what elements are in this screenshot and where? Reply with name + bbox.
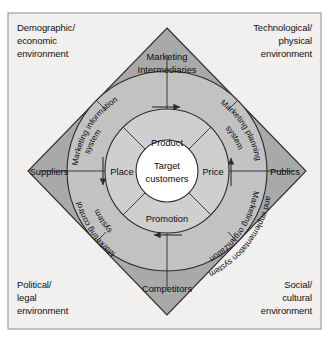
env-bl-line2: legal	[17, 292, 37, 303]
actor-top-line1: Marketing	[147, 52, 188, 62]
mix-label-promotion: Promotion	[146, 214, 188, 224]
actor-label-publics: Publics	[270, 167, 300, 177]
env-tr-line2: physical	[278, 35, 312, 46]
env-bl-line3: environment	[17, 305, 69, 316]
actor-label-competitors: Competitors	[142, 284, 192, 294]
target-customers-core	[136, 140, 198, 202]
core-line2: customers	[146, 174, 189, 184]
env-tl-line2: economic	[17, 35, 57, 46]
env-br-line3: environment	[261, 305, 313, 316]
env-tl-line3: environment	[17, 48, 69, 59]
mix-label-place: Place	[110, 167, 133, 177]
env-tl-line1: Demographic/	[17, 22, 75, 33]
marketing-environment-diagram: Demographic/ economic environment Techno…	[0, 0, 334, 337]
env-br-line1: Social/	[284, 279, 312, 290]
actor-label-suppliers: Suppliers	[30, 167, 69, 177]
env-tr-line1: Technological/	[253, 22, 312, 33]
mix-label-product: Product	[151, 138, 183, 148]
env-br-line2: cultural	[282, 292, 312, 303]
env-bl-line1: Political/	[17, 279, 52, 290]
core-line1: Target	[154, 161, 180, 171]
diagram-canvas: Demographic/ economic environment Techno…	[0, 0, 334, 337]
env-tr-line3: environment	[261, 48, 313, 59]
mix-label-price: Price	[202, 167, 223, 177]
actor-top-line2: Intermediaries	[138, 65, 197, 75]
